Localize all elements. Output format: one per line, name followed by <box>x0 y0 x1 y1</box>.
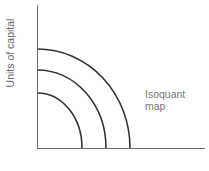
isoquant-curve-1 <box>38 93 83 148</box>
isoquant-curve-2 <box>38 70 107 148</box>
isoquant-diagram: Units of capital Isoquant map <box>0 0 209 171</box>
annotation-line-2: map <box>145 100 185 112</box>
annotation-line-1: Isoquant <box>145 88 185 100</box>
y-axis-label-text: Units of capital <box>4 18 16 87</box>
diagram-canvas <box>0 0 209 171</box>
isoquant-map-label: Isoquant map <box>145 88 185 112</box>
y-axis-label: Units of capital <box>3 5 17 100</box>
isoquant-curve-3 <box>38 49 131 148</box>
